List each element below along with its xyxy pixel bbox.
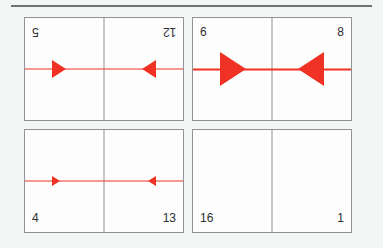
card-number: 16 [200, 212, 213, 224]
arrow-head [148, 176, 156, 186]
card-number: 1 [337, 212, 344, 224]
card-half-right: 13 [104, 130, 183, 232]
arrow-head [220, 52, 246, 86]
arrow-head [142, 60, 156, 78]
card-top-left[interactable]: 5 12 [24, 17, 184, 121]
card-bottom-right[interactable]: 16 1 [192, 129, 352, 233]
card-half-right: 12 [104, 18, 183, 120]
arrow-head [52, 60, 66, 78]
card-half-left: 16 [193, 130, 272, 232]
card-number: 6 [200, 26, 207, 38]
card-number: 12 [163, 26, 176, 38]
arrow-shaft [25, 181, 104, 182]
top-horizontal-rule [11, 5, 372, 7]
card-grid: 5 12 6 [0, 13, 383, 241]
page-root: 5 12 6 [0, 0, 383, 248]
arrow-head [52, 176, 60, 186]
card-number: 13 [163, 212, 176, 224]
card-half-left: 6 [193, 18, 272, 120]
card-half-right: 1 [272, 130, 351, 232]
card-number: 5 [32, 26, 39, 38]
arrow-shaft [104, 181, 183, 182]
card-top-right[interactable]: 6 8 [192, 17, 352, 121]
card-half-left: 4 [25, 130, 104, 232]
card-half-right: 8 [272, 18, 351, 120]
card-half-left: 5 [25, 18, 104, 120]
card-number: 8 [337, 26, 344, 38]
arrow-head [298, 52, 324, 86]
card-bottom-left[interactable]: 4 13 [24, 129, 184, 233]
card-number: 4 [32, 212, 39, 224]
